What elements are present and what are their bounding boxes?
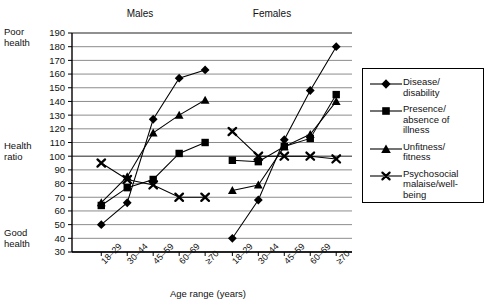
triangle-marker-icon: [369, 143, 403, 155]
legend-label-line: illness: [403, 124, 429, 135]
y-axis-tick-label: 160: [49, 68, 65, 79]
chart-figure: Poor health Health ratio Good health Mal…: [0, 0, 491, 308]
legend-label-line: absence of: [403, 114, 449, 125]
y-axis-tick-label: 150: [49, 82, 65, 93]
diamond-marker-icon: [369, 78, 403, 90]
y-axis-tick-label: 30: [54, 246, 65, 257]
legend-label-line: disability: [403, 87, 439, 98]
x-axis-title: Age range (years): [170, 288, 246, 299]
legend-item-presence-absence-illness[interactable]: Presence/ absence of illness: [369, 104, 477, 136]
cross-marker-icon: [369, 170, 403, 182]
y-axis-tick-label: 190: [49, 27, 65, 38]
legend-item-unfitness-fitness[interactable]: Unfitness/ fitness: [369, 142, 477, 163]
y-axis-tick-label: 180: [49, 41, 65, 52]
y-axis-tick-label: 110: [50, 137, 65, 148]
y-axis-tick-label: 90: [54, 164, 65, 175]
legend-item-psychosocial-malaise[interactable]: Psychosocial malaise/well- being: [369, 169, 477, 201]
legend: Disease/ disability Presence/ absence of…: [362, 68, 484, 203]
legend-label-line: Disease/: [403, 76, 440, 87]
legend-label-line: Presence/: [403, 103, 446, 114]
legend-item-disease-disability[interactable]: Disease/ disability: [369, 77, 477, 98]
legend-label-line: Unfitness/: [403, 141, 445, 152]
legend-label-line: being: [403, 189, 426, 200]
y-axis-tick-label: 170: [49, 55, 65, 66]
y-axis-tick-label: 100: [49, 151, 65, 162]
legend-label-disease-disability: Disease/ disability: [403, 77, 440, 98]
y-axis-tick-label: 70: [54, 192, 65, 203]
legend-label-line: fitness: [403, 151, 430, 162]
y-axis-tick-label: 80: [54, 178, 65, 189]
legend-label-unfitness-fitness: Unfitness/ fitness: [403, 142, 445, 163]
y-axis-tick-label: 130: [49, 110, 65, 121]
y-axis-tick-label: 40: [54, 233, 65, 244]
y-axis-tick-label: 140: [49, 96, 65, 107]
legend-label-line: Psychosocial: [403, 168, 458, 179]
y-axis-tick-label: 120: [49, 123, 65, 134]
y-axis-tick-label: 60: [54, 205, 65, 216]
legend-label-presence-absence-illness: Presence/ absence of illness: [403, 104, 449, 136]
legend-label-psychosocial-malaise: Psychosocial malaise/well- being: [403, 169, 458, 201]
legend-label-line: malaise/well-: [403, 178, 458, 189]
y-axis-tick-label: 50: [54, 219, 65, 230]
square-marker-icon: [369, 105, 403, 117]
